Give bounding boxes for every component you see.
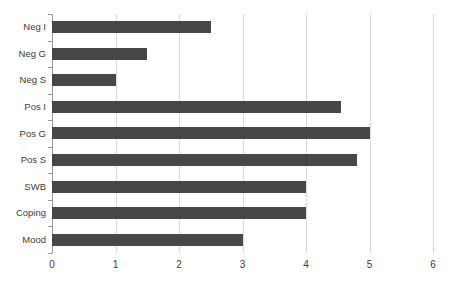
bar bbox=[52, 74, 116, 86]
category-tick bbox=[48, 67, 52, 68]
bar-row bbox=[52, 226, 433, 253]
value-axis-label: 1 bbox=[101, 260, 131, 270]
bar-row bbox=[52, 67, 433, 94]
category-label: Mood bbox=[0, 235, 46, 245]
category-label: Neg S bbox=[0, 75, 46, 85]
category-label: Pos I bbox=[0, 102, 46, 112]
value-axis-label: 0 bbox=[37, 260, 67, 270]
category-tick bbox=[48, 94, 52, 95]
bar bbox=[52, 207, 306, 219]
bar-row bbox=[52, 120, 433, 147]
category-label: Neg I bbox=[0, 22, 46, 32]
value-axis-label: 4 bbox=[291, 260, 321, 270]
value-axis-label: 6 bbox=[418, 260, 448, 270]
category-tick bbox=[48, 120, 52, 121]
bar-row bbox=[52, 200, 433, 227]
bar bbox=[52, 21, 211, 33]
bar-row bbox=[52, 94, 433, 121]
category-tick bbox=[48, 200, 52, 201]
category-label: SWB bbox=[0, 182, 46, 192]
bar-row bbox=[52, 14, 433, 41]
category-label: Pos G bbox=[0, 129, 46, 139]
category-tick bbox=[48, 41, 52, 42]
bar bbox=[52, 101, 341, 113]
category-tick bbox=[48, 173, 52, 174]
bar-chart: Neg INeg GNeg SPos IPos GPos SSWBCopingM… bbox=[0, 0, 456, 294]
value-axis-label: 3 bbox=[228, 260, 258, 270]
category-label: Coping bbox=[0, 208, 46, 218]
bar bbox=[52, 181, 306, 193]
value-axis-label: 5 bbox=[355, 260, 385, 270]
bar bbox=[52, 234, 243, 246]
category-label: Neg G bbox=[0, 49, 46, 59]
gridline-6 bbox=[433, 14, 434, 253]
bar-row bbox=[52, 173, 433, 200]
category-tick bbox=[48, 147, 52, 148]
category-tick bbox=[48, 14, 52, 15]
bar bbox=[52, 48, 147, 60]
value-axis-label: 2 bbox=[164, 260, 194, 270]
bar-row bbox=[52, 41, 433, 68]
bar bbox=[52, 154, 357, 166]
category-tick bbox=[48, 226, 52, 227]
category-label: Pos S bbox=[0, 155, 46, 165]
plot-area bbox=[52, 14, 433, 253]
bar-row bbox=[52, 147, 433, 174]
bar bbox=[52, 127, 370, 139]
category-tick bbox=[48, 253, 52, 254]
